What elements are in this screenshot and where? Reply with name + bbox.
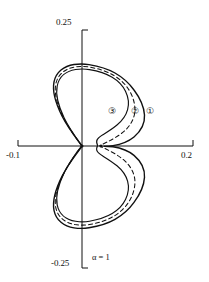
alpha-parameter-annotation: α = 1 <box>92 252 110 262</box>
polar-contour-figure: 0.25 -0.25 -0.1 0.2 ③ ② ① α = 1 <box>0 0 209 282</box>
x-axis-max-label: 0.2 <box>181 150 192 160</box>
x-axis-min-label: -0.1 <box>6 150 20 160</box>
curve-label-three: ③ <box>108 106 116 116</box>
y-axis-max-label: 0.25 <box>56 17 71 27</box>
y-axis-min-label: -0.25 <box>51 258 69 268</box>
curve-label-two: ② <box>131 106 139 116</box>
plot-canvas <box>0 0 209 282</box>
right-node-marker <box>100 145 103 148</box>
origin-node-marker <box>81 145 84 148</box>
curve-label-one: ① <box>146 106 154 116</box>
